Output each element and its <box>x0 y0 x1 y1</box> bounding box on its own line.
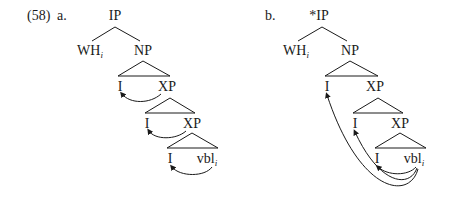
tree-a-np: NP <box>134 44 152 58</box>
tree-a-i-3: I <box>168 152 173 166</box>
tree-a-i-2: I <box>145 117 150 131</box>
tree-b-i-3: I <box>375 152 380 166</box>
tree-b-vbl: vbli <box>404 152 424 170</box>
tree-b-xp-1: XP <box>366 80 384 94</box>
tree-b-i-1: I <box>325 80 330 94</box>
tree-a-root-ip: IP <box>109 9 121 23</box>
tree-a-label: a. <box>57 9 67 23</box>
tree-a-xp-1: XP <box>158 80 176 94</box>
tree-b-i-2: I <box>353 117 358 131</box>
tree-b-arrows <box>327 95 418 186</box>
tree-a-i-1: I <box>118 80 123 94</box>
tree-b-np: NP <box>341 44 359 58</box>
tree-b-label: b. <box>265 9 276 23</box>
tree-a-wh: WHi <box>77 44 103 62</box>
tree-b-xp-2: XP <box>391 117 409 131</box>
tree-a-vbl: vbli <box>197 152 217 170</box>
tree-b-root-ip: *IP <box>309 9 328 23</box>
example-number: (58) <box>27 9 50 23</box>
tree-b-wh: WHi <box>283 44 309 62</box>
tree-lines <box>0 0 451 197</box>
tree-a-xp-2: XP <box>183 117 201 131</box>
